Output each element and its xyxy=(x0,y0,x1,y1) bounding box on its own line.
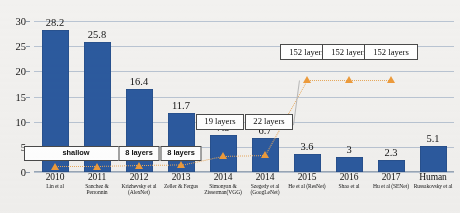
depth-callout-box[interactable]: 152 layers xyxy=(364,44,418,60)
bar[interactable] xyxy=(420,146,447,172)
bar-value-label: 3.6 xyxy=(286,142,328,153)
depth-callout-box[interactable]: shallow xyxy=(24,146,128,161)
x-axis-author-label: Krizhevsky et al (AlexNet) xyxy=(118,184,160,196)
bar-value-label: 3 xyxy=(328,145,370,156)
x-axis-author-label: Russakovsky et al xyxy=(412,184,454,190)
gridline xyxy=(34,21,454,22)
x-axis-category: 2010Lin et al xyxy=(34,173,76,190)
x-axis-author-label: Hu et al (SENet) xyxy=(370,184,412,190)
bar-value-label: 25.8 xyxy=(76,30,118,41)
x-axis-year-label: 2015 xyxy=(286,173,328,183)
bar[interactable] xyxy=(294,154,321,172)
bar-value-label: 2.3 xyxy=(370,148,412,159)
y-axis-tick-mark xyxy=(26,172,30,173)
depth-marker-triangle[interactable] xyxy=(345,76,353,83)
x-axis-category: 2013Zeller & Fergus xyxy=(160,173,202,190)
depth-marker-triangle[interactable] xyxy=(135,162,143,169)
x-axis-year-label: 2011 xyxy=(76,173,118,183)
depth-marker-triangle[interactable] xyxy=(219,152,227,159)
depth-callout-box[interactable]: 8 layers xyxy=(161,146,202,161)
x-axis-category: 2017Hu et al (SENet) xyxy=(370,173,412,190)
x-axis-year-label: Human xyxy=(412,173,454,183)
y-axis-tick-label: 15 xyxy=(16,91,27,102)
bar-value-label: 11.7 xyxy=(160,101,202,112)
x-axis-year-label: 2014 xyxy=(202,173,244,183)
x-axis-category: 2015He et al (ResNet) xyxy=(286,173,328,190)
y-axis-tick-label: 20 xyxy=(16,66,27,77)
x-axis-category: 2016Shao et al xyxy=(328,173,370,190)
x-axis-year-label: 2012 xyxy=(118,173,160,183)
x-axis-category: 2014Szegedy et al (GoogLeNet) xyxy=(244,173,286,196)
depth-callout-box[interactable]: 8 layers xyxy=(119,146,160,161)
x-axis-author-label: Szegedy et al (GoogLeNet) xyxy=(244,184,286,196)
y-axis-tick-mark xyxy=(26,122,30,123)
y-axis-tick-label: 30 xyxy=(16,16,27,27)
x-axis-author-label: He et al (ResNet) xyxy=(286,184,328,190)
y-axis-tick-mark xyxy=(26,46,30,47)
x-axis-category: 2011Sanchez & Perronnin xyxy=(76,173,118,196)
y-axis-tick-label: 10 xyxy=(16,116,27,127)
x-axis-author-label: Simonyan & Zisserman(VGG) xyxy=(202,184,244,196)
x-axis-category: HumanRussakovsky et al xyxy=(412,173,454,190)
depth-callout-box[interactable]: 22 layers xyxy=(245,114,293,130)
x-axis-category: 2014Simonyan & Zisserman(VGG) xyxy=(202,173,244,196)
depth-marker-triangle[interactable] xyxy=(261,151,269,158)
y-axis-tick-mark xyxy=(26,97,30,98)
x-axis-author-label: Lin et al xyxy=(34,184,76,190)
bar-value-label: 28.2 xyxy=(34,18,76,29)
depth-callout-box[interactable]: 19 layers xyxy=(196,114,244,130)
plot-area: 28.225.816.411.77.36.73.632.35.1shallow8… xyxy=(34,21,454,172)
bar[interactable] xyxy=(378,160,405,172)
depth-marker-triangle[interactable] xyxy=(51,163,59,170)
depth-connector-line xyxy=(307,80,349,81)
x-axis-year-label: 2017 xyxy=(370,173,412,183)
x-axis-year-label: 2013 xyxy=(160,173,202,183)
depth-connector-line xyxy=(55,166,97,167)
bar-value-label: 16.4 xyxy=(118,77,160,88)
depth-marker-triangle[interactable] xyxy=(177,161,185,168)
x-axis-category: 2012Krizhevsky et al (AlexNet) xyxy=(118,173,160,196)
x-axis-author-label: Sanchez & Perronnin xyxy=(76,184,118,196)
depth-marker-triangle[interactable] xyxy=(303,76,311,83)
imagenet-error-rate-chart: 051015202530 28.225.816.411.77.36.73.632… xyxy=(0,0,460,213)
x-axis-author-label: Zeller & Fergus xyxy=(160,184,202,190)
depth-connector-line xyxy=(349,80,391,81)
bar-value-label: 5.1 xyxy=(412,134,454,145)
x-axis-author-label: Shao et al xyxy=(328,184,370,190)
x-axis-year-label: 2016 xyxy=(328,173,370,183)
y-axis-tick-mark xyxy=(26,71,30,72)
y-axis-tick-label: 25 xyxy=(16,41,27,52)
x-axis-year-label: 2010 xyxy=(34,173,76,183)
bar[interactable] xyxy=(336,157,363,172)
depth-marker-triangle[interactable] xyxy=(387,76,395,83)
depth-marker-triangle[interactable] xyxy=(93,163,101,170)
x-axis-labels: 2010Lin et al2011Sanchez & Perronnin2012… xyxy=(34,173,454,213)
y-axis-tick-mark xyxy=(26,21,30,22)
x-axis-year-label: 2014 xyxy=(244,173,286,183)
